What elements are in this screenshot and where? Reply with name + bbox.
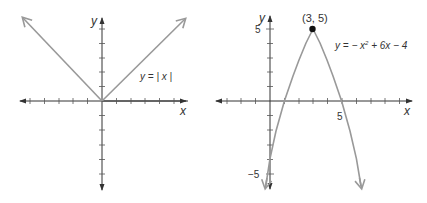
- left-y-axis-label: y: [90, 14, 98, 28]
- vertex-point: [309, 26, 315, 32]
- right-parabola-right-arrow: [360, 178, 362, 188]
- vertex-label: (3, 5): [302, 12, 328, 24]
- right-parabola-curve: [266, 29, 361, 186]
- right-x-axis-label: x: [403, 104, 411, 118]
- right-equation-label: y = − x2 + 6x − 4: [334, 40, 408, 51]
- left-abs-curve-right: [102, 19, 185, 101]
- right-y-axis-label: y: [258, 11, 266, 25]
- tick-label-x5: 5: [337, 111, 343, 122]
- tick-label-yneg5: −5: [248, 169, 260, 180]
- left-graph: y x y = | x |: [20, 14, 188, 190]
- right-graph: y x (3, 5) 5 −5 5 y = − x2 + 6x − 4: [216, 11, 412, 189]
- graphs-canvas: y x y = | x |: [0, 0, 427, 203]
- left-equation-label: y = | x |: [139, 71, 172, 82]
- tick-label-y5: 5: [255, 24, 261, 35]
- left-abs-curve: [23, 18, 102, 101]
- right-parabola-left-arrow: [265, 178, 267, 188]
- left-x-axis-label: x: [179, 104, 187, 118]
